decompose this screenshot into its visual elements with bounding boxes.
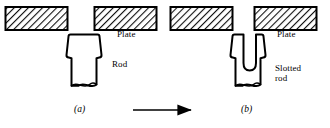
plate-left-b — [171, 7, 233, 30]
label-plate-panel-b: Plate — [277, 30, 296, 40]
label-plate-panel-a: Plate — [117, 30, 136, 40]
rod-solid — [66, 35, 101, 87]
panel-a-group — [6, 7, 157, 86]
plate-right-b — [255, 7, 317, 30]
rod-slotted — [230, 35, 265, 87]
label-rod-panel-a: Rod — [112, 60, 127, 70]
figure-container: Plate Rod Plate Slotted rod (a) (b) — [0, 0, 330, 128]
plate-right-a — [95, 7, 157, 30]
panel-caption-b: (b) — [241, 104, 252, 114]
plate-left-a — [6, 7, 68, 30]
panel-caption-a: (a) — [74, 104, 85, 114]
label-slotted-rod-panel-b: Slotted rod — [275, 64, 301, 83]
